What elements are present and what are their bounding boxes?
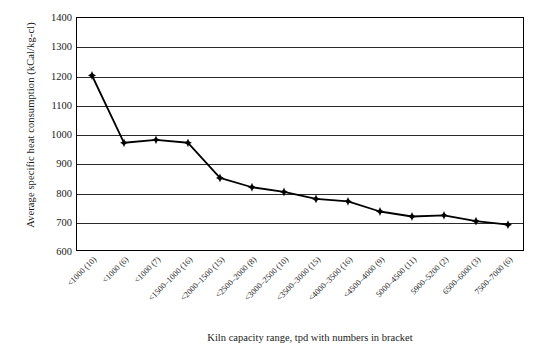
- x-axis-title-text: Kiln capacity range, tpd with numbers in…: [207, 332, 412, 343]
- data-point-marker: [280, 188, 288, 197]
- data-point-marker: [376, 207, 384, 216]
- x-axis-title: Kiln capacity range, tpd with numbers in…: [0, 332, 540, 343]
- series-polyline: [92, 76, 508, 225]
- data-point-marker: [504, 220, 512, 229]
- data-point-marker: [120, 138, 128, 147]
- data-point-marker: [88, 71, 96, 80]
- data-point-marker: [344, 197, 352, 206]
- data-point-marker: [312, 195, 320, 204]
- chart-figure: Average specific heat consumption (kCal/…: [0, 0, 540, 359]
- data-point-marker: [472, 217, 480, 226]
- data-point-marker: [152, 135, 160, 144]
- data-point-marker: [440, 211, 448, 220]
- data-point-marker: [408, 212, 416, 221]
- data-point-marker: [248, 183, 256, 192]
